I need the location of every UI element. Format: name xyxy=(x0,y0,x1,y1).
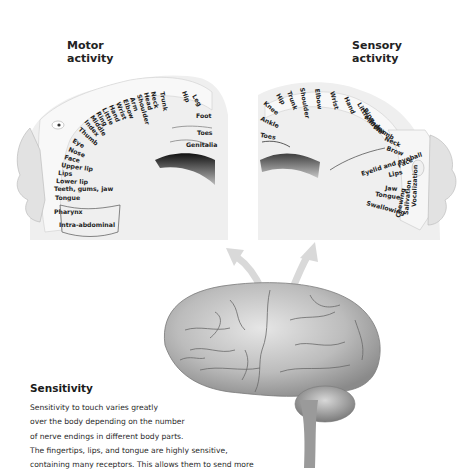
sensitivity-line: containing many receptors. This allows t… xyxy=(30,458,254,472)
sensitivity-line: The fingertips, lips, and tongue are hig… xyxy=(30,444,254,458)
sensory-label-vocalization: Vocalization xyxy=(410,165,418,208)
motor-label-pharynx: Pharynx xyxy=(54,208,83,216)
motor-cortex-section: Trunk Neck Head Shoulder Arm Elbow Wrist… xyxy=(17,76,228,240)
sensitivity-line: of nerve endings in different body parts… xyxy=(30,430,254,444)
sensitivity-line: over the body depending on the number xyxy=(30,415,254,429)
motor-label-teeth-gums-jaw: Teeth, gums, jaw xyxy=(54,185,113,193)
sensitivity-heading: Sensitivity xyxy=(30,382,93,394)
sensitivity-body: Sensitivity to touch varies greatly over… xyxy=(30,401,254,472)
motor-label-toes: Toes xyxy=(197,129,213,136)
motor-label-foot: Foot xyxy=(196,112,211,119)
motor-label-intra-abdominal: Intra-abdominal xyxy=(59,221,115,228)
motor-label-genitalia: Genitalia xyxy=(186,141,217,148)
sensitivity-line: Sensitivity to touch varies greatly xyxy=(30,401,254,415)
sensory-cortex-section: Knee Hip Trunk Shoulder Elbow Wrist Hand… xyxy=(258,82,456,240)
motor-label-tongue: Tongue xyxy=(55,194,80,202)
